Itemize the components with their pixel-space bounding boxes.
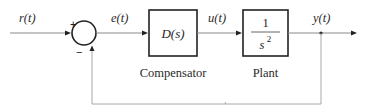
control-wire <box>197 31 242 36</box>
error-wire <box>96 31 148 36</box>
compensator-caption: Compensator <box>140 66 207 80</box>
error-signal-label: e(t) <box>111 11 128 25</box>
block-diagram: r(t) + − e(t) D(s) Compensator u(t) 1 s … <box>0 0 367 112</box>
output-signal-label: y(t) <box>311 11 330 25</box>
summing-junction <box>72 21 96 45</box>
plant-denominator-exponent: 2 <box>267 34 272 44</box>
plant-caption: Plant <box>253 66 279 80</box>
reference-signal-label: r(t) <box>19 11 36 25</box>
control-signal-label: u(t) <box>208 11 226 25</box>
compensator-block: D(s) <box>149 10 197 56</box>
minus-sign: − <box>76 46 82 58</box>
compensator-transfer-function: D(s) <box>160 26 184 41</box>
plant-block: 1 s 2 <box>243 10 288 56</box>
plant-denominator-base: s <box>260 38 265 52</box>
reference-input-wire <box>10 31 71 36</box>
plant-numerator: 1 <box>262 16 268 30</box>
